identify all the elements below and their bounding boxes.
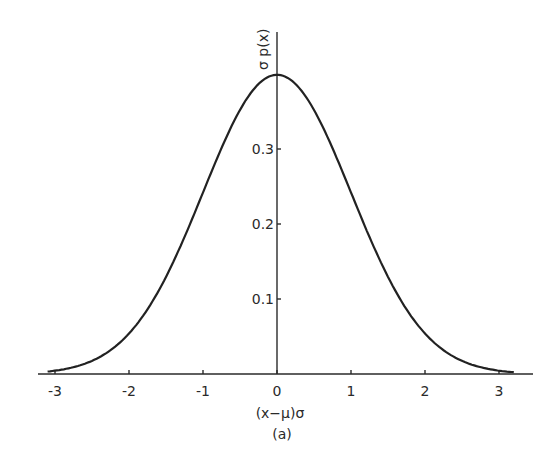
x-tick-label: -3	[48, 383, 62, 399]
y-axis-label: σ p(x)	[255, 29, 271, 70]
normal-distribution-chart: -3-2-10123 0.10.20.3 σ p(x) (x−μ)σ (a)	[0, 0, 560, 467]
y-tick-label: 0.2	[252, 216, 274, 232]
y-tick-label: 0.3	[252, 141, 274, 157]
x-axis-label: (x−μ)σ	[256, 405, 305, 421]
x-tick-label: -2	[122, 383, 136, 399]
y-tick-label: 0.1	[252, 291, 274, 307]
x-tick-label: 0	[273, 383, 282, 399]
x-tick-label: 1	[347, 383, 356, 399]
x-tick-label: 2	[421, 383, 430, 399]
x-tick-label: 3	[495, 383, 504, 399]
chart-svg: -3-2-10123 0.10.20.3 σ p(x) (x−μ)σ (a)	[0, 0, 560, 467]
figure-caption: (a)	[272, 426, 292, 442]
x-tick-label: -1	[196, 383, 210, 399]
